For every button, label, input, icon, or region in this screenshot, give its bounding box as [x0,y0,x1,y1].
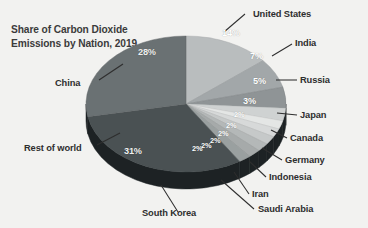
callout-label-saudi-arabia: Saudi Arabia [258,204,313,214]
callout-label-united-states: United States [253,9,311,19]
callout-label-russia: Russia [300,75,330,85]
slice-pct-united-states: 14% [222,28,240,38]
slice-pct-canada: 2% [234,110,244,119]
callout-label-china: China [55,78,80,88]
chart-canvas: Share of Carbon Dioxide Emissions by Nat… [0,0,368,228]
callout-label-iran: Iran [252,189,269,199]
slice-pct-india: 7% [250,51,263,61]
callout-label-germany: Germany [285,155,325,165]
slice-pct-china: 28% [138,47,156,57]
callout-label-india: India [295,38,316,48]
slice-pct-japan: 3% [243,96,256,106]
slice-pct-saudi-arabia: 2% [201,141,211,150]
callout-label-indonesia: Indonesia [269,172,312,182]
callout-label-japan: Japan [300,110,326,120]
callout-label-south-korea: South Korea [142,208,196,218]
slice-pct-rest-of-world: 31% [124,146,142,156]
pie-slice-china [86,36,186,117]
callout-label-canada: Canada [290,133,323,143]
slice-pct-south-korea: 2% [192,144,202,153]
leader-line-india [272,44,292,56]
leader-line-saudi-arabia [221,180,254,209]
slice-pct-iran: 2% [210,136,220,145]
callout-label-rest-of-world: Rest of world [24,143,82,153]
slice-pct-russia: 5% [253,76,266,86]
